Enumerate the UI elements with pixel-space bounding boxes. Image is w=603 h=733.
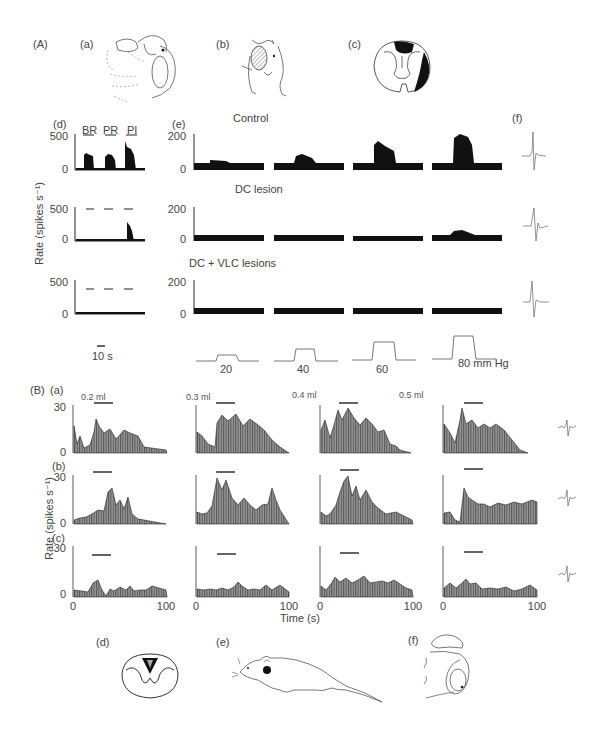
b-xtick-100: 100 bbox=[153, 600, 179, 612]
b-xtick-100: 100 bbox=[276, 600, 302, 612]
b-xtick-0: 0 bbox=[310, 600, 330, 612]
panel-b-xlabel: Time (s) bbox=[280, 612, 320, 624]
panel-b-sub-e: (e) bbox=[216, 636, 229, 648]
brainstem-drawing bbox=[420, 632, 480, 700]
b-xtick-0: 0 bbox=[186, 600, 206, 612]
panel-b-sub-f: (f) bbox=[408, 634, 418, 646]
rat-drawing bbox=[236, 648, 386, 706]
b-xtick-100: 100 bbox=[400, 600, 426, 612]
b-xtick-100: 100 bbox=[524, 600, 550, 612]
panel-b-sub-d: (d) bbox=[96, 636, 109, 648]
spinal-cord-section-drawing bbox=[120, 652, 180, 700]
b-xtick-0: 0 bbox=[63, 600, 83, 612]
panel-b-histograms bbox=[0, 0, 603, 620]
b-xtick-0: 0 bbox=[433, 600, 453, 612]
